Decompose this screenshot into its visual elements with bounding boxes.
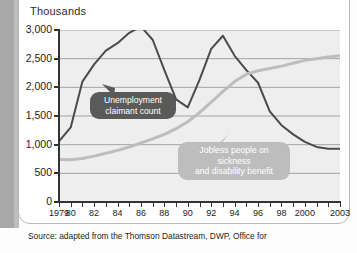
x-tick-label: 98: [276, 208, 286, 218]
x-tick-label: 94: [230, 208, 240, 218]
x-tick-mark: [82, 203, 83, 207]
x-tick-mark: [164, 203, 165, 207]
x-tick-label: 92: [206, 208, 216, 218]
x-tick-label: 88: [159, 208, 169, 218]
y-tick-mark: [54, 115, 59, 117]
y-tick-mark: [54, 29, 59, 31]
y-tick-label: 0: [2, 195, 52, 207]
y-tick-label: 1,500: [2, 109, 52, 121]
x-tick-label: 90: [183, 208, 193, 218]
x-tick-mark: [281, 203, 282, 207]
x-tick-mark: [176, 203, 177, 207]
x-tick-label: 82: [89, 208, 99, 218]
x-tick-mark: [223, 203, 224, 207]
x-tick-mark: [328, 203, 329, 207]
x-tick-mark: [106, 203, 107, 207]
x-tick-mark: [129, 203, 130, 207]
y-tick-mark: [54, 172, 59, 174]
y-tick-label: 500: [2, 166, 52, 178]
y-tick-label: 2,500: [2, 52, 52, 64]
x-tick-mark: [270, 203, 271, 207]
callout-sickness-tail: [215, 133, 233, 147]
x-tick-label: 86: [136, 208, 146, 218]
callout-unemployment-tail: [100, 84, 118, 98]
x-tick-mark: [153, 203, 154, 207]
x-tick-mark: [305, 203, 306, 207]
x-tick-mark: [317, 203, 318, 207]
x-tick-label: 96: [253, 208, 263, 218]
y-tick-label: 2,000: [2, 80, 52, 92]
x-tick-label: 2003: [330, 208, 350, 218]
y-tick-mark: [54, 58, 59, 60]
x-tick-mark: [340, 203, 341, 207]
y-tick-label: 1,000: [2, 138, 52, 150]
x-tick-label: 80: [66, 208, 76, 218]
x-tick-mark: [246, 203, 247, 207]
x-tick-mark: [293, 203, 294, 207]
x-tick-mark: [141, 203, 142, 207]
x-tick-mark: [59, 203, 60, 207]
x-tick-mark: [211, 203, 212, 207]
y-axis-labels: 05001,0001,5002,0002,5003,000: [0, 0, 52, 253]
source-note: Source: adapted from the Thomson Datastr…: [28, 231, 348, 241]
figure-root: Thousands 05001,0001,5002,0002,5003,000 …: [0, 0, 357, 253]
x-tick-mark: [118, 203, 119, 207]
x-tick-mark: [94, 203, 95, 207]
callout-sickness: Jobless people on sickness and disabilit…: [178, 142, 290, 180]
x-tick-mark: [188, 203, 189, 207]
x-tick-label: 84: [113, 208, 123, 218]
y-tick-label: 3,000: [2, 23, 52, 35]
y-tick-mark: [54, 86, 59, 88]
x-tick-mark: [235, 203, 236, 207]
x-tick-mark: [200, 203, 201, 207]
y-tick-mark: [54, 144, 59, 146]
x-tick-label: 2000: [295, 208, 315, 218]
x-tick-mark: [258, 203, 259, 207]
x-tick-mark: [71, 203, 72, 207]
